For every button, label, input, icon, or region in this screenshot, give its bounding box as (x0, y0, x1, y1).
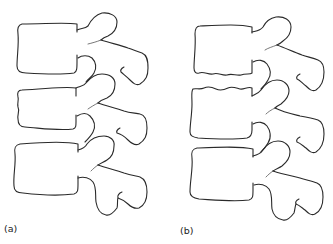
inferior-articular-process (253, 122, 270, 152)
panel-b (190, 17, 324, 220)
inferior-process (254, 184, 296, 220)
vertebral-body (190, 87, 252, 139)
superior-articular-process (78, 136, 114, 165)
crack-line (88, 40, 101, 44)
vertebral-body (17, 23, 77, 74)
transverse-process (101, 40, 148, 85)
inferior-process (78, 177, 118, 215)
panel-label-b: (b) (180, 226, 193, 236)
transverse-process (98, 103, 147, 145)
superior-articular-process (252, 80, 289, 108)
crack-line (266, 108, 275, 114)
vertebral-body (194, 25, 252, 75)
vertebral-body (18, 87, 76, 129)
vertebra-b-1 (194, 17, 324, 91)
crack-line (88, 103, 98, 109)
crack-line (266, 171, 273, 177)
panel-label-a: (a) (4, 224, 17, 234)
inferior-articular-process (78, 56, 96, 82)
crack-line (265, 45, 277, 50)
superior-articular-process (252, 17, 291, 45)
vertebral-body (14, 142, 78, 195)
transverse-process (273, 171, 323, 215)
vertebral-body (190, 147, 253, 201)
vertebra-b-2 (190, 80, 324, 153)
vertebra-b-3 (190, 141, 323, 220)
superior-articular-process (77, 13, 117, 40)
inferior-articular-process (253, 60, 270, 89)
vertebra-a-3 (14, 136, 147, 215)
transverse-process (98, 165, 147, 208)
spine-diagram (0, 0, 333, 244)
panel-a (14, 13, 148, 215)
inferior-articular-process (77, 114, 94, 142)
vertebra-a-2 (18, 74, 147, 145)
superior-articular-process (76, 74, 115, 103)
transverse-process (277, 45, 324, 91)
crack-line (91, 165, 98, 171)
transverse-process (275, 108, 324, 153)
superior-articular-process (253, 141, 290, 171)
vertebra-a-1 (17, 13, 148, 85)
